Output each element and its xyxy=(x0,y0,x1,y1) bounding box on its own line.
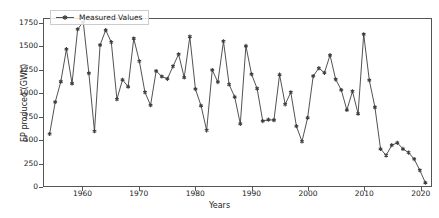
x-tick-mark xyxy=(139,187,140,191)
x-tick-label: 1960 xyxy=(73,190,92,198)
y-axis-label: EP produced (GWh) xyxy=(20,33,29,173)
legend-label: Measured Values xyxy=(79,14,143,22)
y-tick-label: 1500 xyxy=(4,42,38,50)
y-tick-label: 1750 xyxy=(4,19,38,27)
x-axis-label: Years xyxy=(0,201,439,210)
series-markers xyxy=(48,20,427,185)
x-tick-mark xyxy=(82,187,83,191)
x-tick-mark xyxy=(308,187,309,191)
x-tick-mark xyxy=(195,187,196,191)
y-tick-mark xyxy=(39,23,43,24)
x-tick-mark xyxy=(364,187,365,191)
y-tick-label: 250 xyxy=(4,160,38,168)
y-tick-label: 750 xyxy=(4,113,38,121)
y-tick-label: 500 xyxy=(4,136,38,144)
y-tick-label: 0 xyxy=(4,183,38,191)
x-tick-mark xyxy=(252,187,253,191)
x-tick-label: 2000 xyxy=(298,190,317,198)
x-tick-label: 2020 xyxy=(411,190,430,198)
chart-legend: Measured Values xyxy=(50,10,149,25)
series-line xyxy=(50,22,426,183)
y-tick-mark xyxy=(39,70,43,71)
x-tick-label: 1980 xyxy=(186,190,205,198)
y-tick-label: 1250 xyxy=(4,66,38,74)
plot-area xyxy=(43,18,432,187)
y-tick-mark xyxy=(39,117,43,118)
y-tick-label: 1000 xyxy=(4,89,38,97)
legend-line-marker-icon xyxy=(55,13,75,22)
y-tick-mark xyxy=(39,93,43,94)
x-tick-label: 2010 xyxy=(355,190,374,198)
y-tick-mark xyxy=(39,187,43,188)
y-tick-mark xyxy=(39,164,43,165)
chart-figure: EP produced (GWh) 0250500750100012501500… xyxy=(0,0,439,218)
y-tick-mark xyxy=(39,46,43,47)
x-tick-label: 1970 xyxy=(129,190,148,198)
y-tick-mark xyxy=(39,140,43,141)
data-series-svg xyxy=(44,19,431,186)
x-tick-label: 1990 xyxy=(242,190,261,198)
x-tick-mark xyxy=(421,187,422,191)
